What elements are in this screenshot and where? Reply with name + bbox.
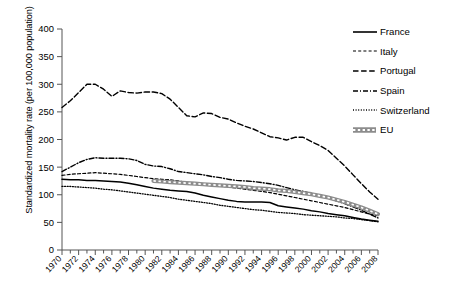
x-tick-label: 2002 xyxy=(309,253,330,274)
legend-label-france: France xyxy=(380,26,410,37)
chart-figure: Standardized mortality rate (per 100,000… xyxy=(0,0,471,293)
x-tick-label: 2006 xyxy=(342,253,363,274)
x-axis-ticks xyxy=(62,250,378,255)
x-tick-label: 1986 xyxy=(176,253,197,274)
series-line-eu-overlay xyxy=(153,181,378,214)
legend-item-eu[interactable]: EU xyxy=(352,120,470,140)
y-axis-ticks: 050100150200250300350400 xyxy=(38,23,62,255)
y-tick-label: 100 xyxy=(38,189,54,200)
x-tick-label: 1974 xyxy=(76,253,97,274)
y-tick-label: 300 xyxy=(38,79,54,90)
series-line-italy xyxy=(62,173,378,216)
y-tick-label: 0 xyxy=(49,244,54,255)
chart-legend: France Italy Portugal Spain Switzerland … xyxy=(352,22,470,140)
x-axis-labels: 1970197219741976197819801982198419861988… xyxy=(43,253,380,274)
y-tick-label: 400 xyxy=(38,23,54,34)
x-tick-label: 1970 xyxy=(43,253,64,274)
y-tick-label: 350 xyxy=(38,51,54,62)
legend-label-eu: EU xyxy=(380,124,393,135)
series-line-eu xyxy=(153,181,378,214)
x-tick-label: 1996 xyxy=(259,253,280,274)
legend-label-spain: Spain xyxy=(380,85,405,96)
x-tick-label: 1992 xyxy=(226,253,247,274)
legend-swatch-italy xyxy=(352,45,378,57)
x-tick-label: 1990 xyxy=(209,253,230,274)
y-tick-label: 200 xyxy=(38,134,54,145)
x-tick-label: 1972 xyxy=(60,253,81,274)
legend-item-italy[interactable]: Italy xyxy=(352,42,470,62)
x-tick-label: 1998 xyxy=(276,253,297,274)
data-series-group xyxy=(62,84,378,222)
x-tick-label: 1984 xyxy=(160,253,181,274)
legend-item-spain[interactable]: Spain xyxy=(352,81,470,101)
legend-swatch-switzerland xyxy=(352,104,378,116)
y-tick-label: 250 xyxy=(38,106,54,117)
legend-item-switzerland[interactable]: Switzerland xyxy=(352,100,470,120)
x-tick-label: 1980 xyxy=(126,253,147,274)
legend-label-switzerland: Switzerland xyxy=(380,105,430,116)
x-tick-label: 1988 xyxy=(193,253,214,274)
x-tick-label: 1976 xyxy=(93,253,114,274)
x-tick-label: 2000 xyxy=(293,253,314,274)
y-tick-label: 150 xyxy=(38,162,54,173)
legend-label-portugal: Portugal xyxy=(380,65,416,76)
x-tick-label: 1978 xyxy=(110,253,131,274)
legend-swatch-france xyxy=(352,26,378,38)
legend-item-france[interactable]: France xyxy=(352,22,470,42)
x-tick-label: 2004 xyxy=(326,253,347,274)
legend-swatch-portugal xyxy=(352,65,378,77)
x-tick-label: 2008 xyxy=(359,253,380,274)
legend-label-italy: Italy xyxy=(380,46,398,57)
x-tick-label: 1994 xyxy=(243,253,264,274)
legend-item-portugal[interactable]: Portugal xyxy=(352,61,470,81)
x-tick-label: 1982 xyxy=(143,253,164,274)
y-tick-label: 50 xyxy=(44,217,54,228)
series-line-spain xyxy=(62,158,378,218)
legend-swatch-eu xyxy=(352,124,378,136)
legend-swatch-spain xyxy=(352,85,378,97)
